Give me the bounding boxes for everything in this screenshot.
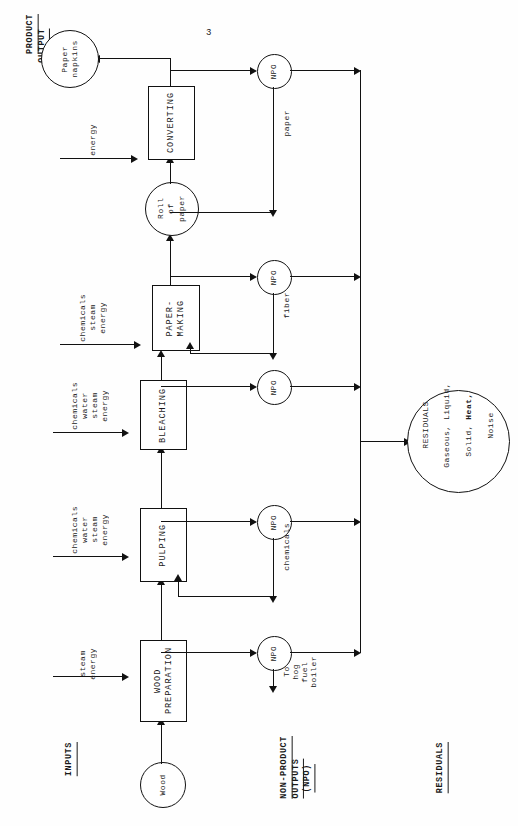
- node-paper-napkins-label: Paper napkins: [60, 40, 81, 78]
- label-paper-recycle: paper: [283, 110, 292, 137]
- process-paper-making-label: PAPER- MAKING: [165, 300, 186, 337]
- edge-bleaching-to-paper-making: [161, 356, 162, 380]
- process-wood-preparation-label: WOOD PREPARATION: [153, 647, 174, 714]
- node-residuals-line3: Noise: [485, 412, 494, 439]
- node-residuals-line2a: Solid,: [464, 420, 473, 457]
- page-number: 3: [206, 28, 211, 38]
- node-residuals: RESIDUALS Gaseous, Liquid, Solid, Heat, …: [407, 390, 510, 493]
- label-chemicals-recycle: chemicals: [283, 523, 292, 571]
- label-fiber-recycle: fiber: [283, 292, 292, 319]
- edge-fiber-recycle-down: [273, 293, 274, 355]
- edge-tap-wood-preparation: [161, 616, 162, 617]
- diagram-canvas: 3 PRODUCT OUTPUT INPUTS NON-PRODUCT OUTP…: [0, 0, 518, 826]
- input-arrow-pulping: [53, 556, 123, 557]
- node-wood: Wood: [140, 762, 186, 808]
- npo-pulping-label: NPO: [270, 515, 280, 530]
- arrowhead-input-wood-preparation: [122, 673, 129, 681]
- edge-paper-recycle-down: [273, 87, 274, 212]
- edge-converting-to-npo: [170, 70, 251, 71]
- npo-bleaching: NPO: [257, 370, 292, 405]
- npo-wood-preparation-label: NPO: [270, 646, 280, 661]
- arrowhead-npo-bleaching: [250, 383, 257, 391]
- edge-chemicals-recycle-left: [178, 596, 274, 597]
- edge-chemicals-recycle-up: [178, 580, 179, 597]
- section-label-residuals: RESIDUALS: [424, 742, 458, 816]
- edge-wood-to-wood-preparation: [161, 724, 162, 764]
- section-label-inputs: INPUTS: [53, 742, 87, 799]
- label-hog-fuel-boiler: To hog fuel boiler: [283, 656, 319, 688]
- edge-chemicals-recycle-down: [273, 538, 274, 598]
- npo-paper-making: NPO: [257, 260, 292, 295]
- arrowhead-input-bleaching: [122, 429, 129, 437]
- edge-pulping-to-bleaching: [161, 452, 162, 508]
- edge-wood-preparation-to-npo: [161, 652, 251, 653]
- edge-wood-preparation-to-pulping: [161, 584, 162, 640]
- arrowhead-input-pulping: [122, 553, 129, 561]
- node-roll-of-paper-label: Roll of paper: [156, 195, 187, 222]
- edge-fiber-recycle-left: [190, 353, 274, 354]
- process-pulping-label: PULPING: [158, 524, 169, 567]
- process-converting-label: CONVERTING: [166, 92, 177, 153]
- node-residuals-line1: Gaseous, Liquid,: [442, 383, 451, 468]
- arrowhead-chemicals-into-pulping: [174, 574, 182, 581]
- arrowhead-input-converting: [131, 155, 138, 163]
- edge-paper-making-to-npo: [170, 276, 251, 277]
- process-bleaching-label: BLEACHING: [158, 388, 169, 443]
- input-arrow-paper-making: [60, 344, 135, 345]
- edge-roll-to-converting: [170, 162, 171, 184]
- node-residuals-line2b: Heat,: [464, 394, 473, 421]
- npo-paper-making-label: NPO: [270, 270, 280, 285]
- arrowhead-input-paper-making: [134, 341, 141, 349]
- arrowhead-npo-paper-making: [250, 273, 257, 281]
- process-pulping: PULPING: [140, 508, 187, 582]
- process-bleaching: BLEACHING: [140, 380, 187, 450]
- input-arrow-bleaching: [53, 432, 123, 433]
- section-label-non-product-outputs: NON-PRODUCT OUTPUTS (NPO): [268, 736, 325, 822]
- edge-bleaching-to-npo: [161, 386, 251, 387]
- edge-bus-to-residuals: [360, 441, 405, 442]
- edge-converting-up: [170, 58, 171, 86]
- process-converting: CONVERTING: [148, 86, 195, 160]
- edge-pulping-to-npo: [161, 521, 251, 522]
- arrowhead-npo-pulping: [250, 518, 257, 526]
- edge-npo-converting-to-bus: [290, 70, 357, 71]
- node-roll-of-paper: Roll of paper: [145, 182, 199, 236]
- input-arrow-converting: [60, 158, 132, 159]
- edge-npo-paper-making-to-bus: [290, 276, 357, 277]
- edge-npo-wood-preparation-to-bus: [290, 652, 357, 653]
- edge-paper-making-to-roll: [170, 240, 171, 285]
- input-label-paper-making: chemicals steam energy: [78, 294, 108, 342]
- edge-converting-to-napkins: [100, 58, 171, 59]
- arrowhead-npo-converting: [250, 67, 257, 75]
- npo-converting-label: NPO: [270, 64, 280, 79]
- arrowhead-npo-wood-preparation: [250, 649, 257, 657]
- edge-npo-bleaching-to-bus: [290, 386, 357, 387]
- edge-npo-pulping-to-bus: [290, 521, 357, 522]
- node-residuals-title: RESIDUALS: [421, 402, 430, 450]
- edge-paper-recycle-left: [170, 212, 274, 213]
- residuals-bus-line: [360, 70, 361, 653]
- arrowhead-hog-fuel-boiler: [269, 686, 277, 693]
- edge-npo-to-hog-fuel-boiler: [273, 669, 274, 687]
- input-label-bleaching: chemicals water steam energy: [70, 382, 110, 430]
- npo-bleaching-label: NPO: [270, 380, 280, 395]
- node-wood-label: Wood: [158, 774, 168, 796]
- arrowhead-fiber-into-paper-making: [186, 342, 194, 349]
- arrowhead-paper-making-in: [157, 350, 165, 357]
- input-label-wood-preparation: steam energy: [78, 648, 98, 680]
- node-paper-napkins: Paper napkins: [41, 30, 99, 88]
- npo-converting: NPO: [257, 54, 292, 89]
- input-label-pulping: chemicals water steam energy: [70, 506, 110, 554]
- input-label-converting: energy: [88, 124, 98, 156]
